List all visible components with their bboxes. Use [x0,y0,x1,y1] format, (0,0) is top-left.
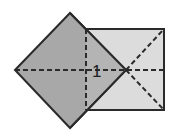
figure-label: 1 [92,62,101,81]
geometry-diagram: 1 [0,0,173,137]
